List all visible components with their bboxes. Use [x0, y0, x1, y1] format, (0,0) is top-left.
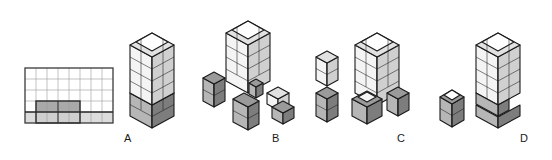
option-c-figure: [316, 33, 409, 124]
option-d-tower: [476, 33, 520, 128]
grid-key: [25, 68, 113, 123]
option-b-piece-left: [203, 72, 225, 107]
option-label-d: D: [520, 133, 528, 144]
option-d-small-block: [440, 90, 464, 127]
option-label-a: A: [124, 133, 132, 144]
option-b-light-tower: [226, 21, 270, 93]
figure-canvas: .o { stroke:#1a1a1a; stroke-width:1.1; s…: [0, 0, 552, 160]
option-b-piece-front: [233, 93, 259, 130]
option-c-dark-base-right: [387, 87, 409, 116]
option-label-c: C: [397, 133, 405, 144]
option-d-figure: [440, 33, 520, 128]
option-b-piece-upper-right: [249, 79, 263, 98]
option-c-piece-v-dark: [316, 87, 338, 122]
option-b-figure: [203, 21, 294, 130]
option-a-light-body: [130, 33, 174, 105]
option-a-figure: [130, 33, 174, 128]
option-label-b: B: [272, 133, 280, 144]
option-c-piece-v-light: [316, 51, 338, 86]
